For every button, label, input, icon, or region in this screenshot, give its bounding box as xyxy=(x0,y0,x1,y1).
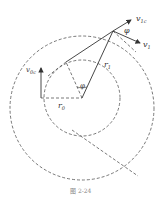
label-r1: r1 xyxy=(104,60,111,70)
transfer-path-dashed-line xyxy=(48,62,66,76)
orbit-diagram: v1c v1 φ v0c r1 φ r0 图 2-24 xyxy=(0,0,164,197)
label-v0c: v0c xyxy=(26,66,36,75)
center-to-tangent-dashed-line xyxy=(66,62,82,98)
label-v1: v1 xyxy=(143,40,151,50)
lower-dashed-line xyxy=(72,130,138,176)
label-v1c: v1c xyxy=(136,14,147,24)
label-phi-top: φ xyxy=(124,26,130,35)
figure-caption: 图 2-24 xyxy=(70,187,92,195)
outer-orbit-circle xyxy=(10,36,154,180)
label-r0: r0 xyxy=(58,101,66,111)
label-phi-center: φ xyxy=(80,82,85,90)
